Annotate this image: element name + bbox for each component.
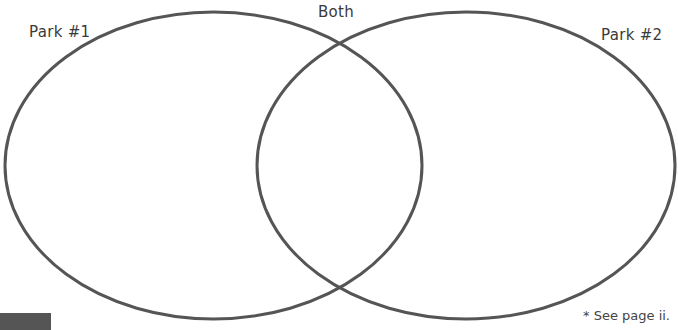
both-label: Both (318, 3, 354, 21)
park-1-ellipse (5, 12, 422, 319)
footnote: * See page ii. (583, 308, 670, 323)
park-1-label: Park #1 (29, 23, 90, 41)
park-2-ellipse (257, 12, 675, 319)
park-2-label: Park #2 (601, 26, 662, 44)
page-corner-tab (0, 313, 51, 330)
venn-diagram (0, 0, 678, 330)
